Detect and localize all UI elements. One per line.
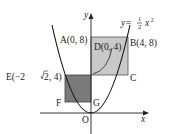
svg-text:1: 1 — [138, 15, 141, 22]
svg-text:y=: y= — [120, 18, 132, 28]
origin-label: O — [82, 115, 89, 125]
svg-text:E(−2: E(−2 — [6, 72, 25, 83]
point-g-label: G — [93, 98, 100, 108]
point-a-label: A(0, 8) — [60, 35, 87, 46]
square-efgd — [65, 75, 91, 102]
svg-text:x: x — [144, 18, 150, 28]
y-axis-arrow-icon — [89, 13, 94, 19]
y-axis-label: y — [83, 10, 89, 20]
coordinate-diagram: y x O y= 1 2 x 2 A(0, 8) B(4, 8) C D(0, … — [0, 0, 173, 134]
point-e-label: E(−2 2 , 4) — [6, 71, 62, 83]
point-b-label: B(4, 8) — [130, 38, 157, 49]
point-f-label: F — [56, 98, 61, 108]
svg-text:2: 2 — [138, 23, 141, 30]
svg-text:, 4): , 4) — [49, 72, 62, 83]
svg-text:2: 2 — [151, 17, 154, 23]
x-axis-label: x — [140, 114, 146, 124]
point-d-label: D(0, 4) — [94, 42, 121, 53]
point-c-label: C — [130, 73, 136, 83]
curve-equation-label: y= 1 2 x 2 — [120, 15, 154, 30]
